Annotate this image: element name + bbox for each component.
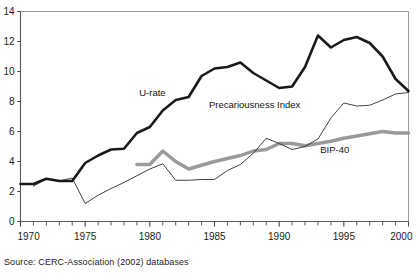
y-tick-label: 14	[3, 6, 15, 17]
line-chart: 02468101214 1970197519801985199019952000…	[0, 0, 420, 273]
y-tick-label: 6	[9, 126, 15, 137]
y-tick-label: 4	[9, 156, 15, 167]
series-label-u-rate: U-rate	[139, 87, 165, 98]
x-tick-label: 1980	[139, 231, 162, 242]
x-tick-label: 1975	[74, 231, 97, 242]
figure-container: 02468101214 1970197519801985199019952000…	[0, 0, 420, 273]
axis-ticks	[17, 12, 408, 227]
y-axis-tick-labels: 02468101214	[3, 6, 15, 227]
series-label-bip-40: BIP-40	[320, 144, 349, 155]
x-axis-tick-labels: 1970197519801985199019952000	[18, 231, 413, 242]
y-tick-label: 2	[9, 186, 15, 197]
data-series	[21, 36, 409, 204]
y-tick-label: 8	[9, 96, 15, 107]
source-note: Source: CERC-Association (2002) database…	[4, 257, 189, 267]
series-label-precariousness-index: Precariousness Index	[209, 99, 301, 110]
y-tick-label: 0	[9, 216, 15, 227]
x-tick-label: 2000	[390, 231, 413, 242]
x-tick-label: 1970	[18, 231, 41, 242]
x-tick-label: 1990	[268, 231, 291, 242]
x-tick-label: 1985	[203, 231, 226, 242]
x-tick-label: 1995	[333, 231, 356, 242]
y-tick-label: 10	[3, 66, 15, 77]
series-line-bip-40	[137, 132, 409, 170]
y-tick-label: 12	[3, 36, 15, 47]
